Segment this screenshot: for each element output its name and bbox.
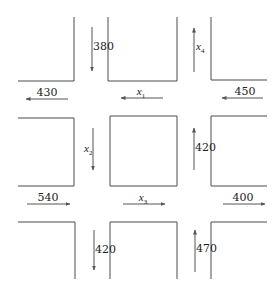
block-center xyxy=(110,116,177,186)
flow-value-label: 380 xyxy=(93,40,114,53)
block-top-right xyxy=(211,17,267,80)
flow-450-in: 450 xyxy=(222,85,263,98)
flow-value-label: 430 xyxy=(37,86,58,99)
block-top-middle xyxy=(108,17,177,81)
block-bottom-middle xyxy=(110,222,177,279)
flow-x3: x3 xyxy=(123,191,165,206)
flow-420-middle-in: 420 xyxy=(194,128,216,170)
block-top-left xyxy=(18,17,74,81)
variable-label: x4 xyxy=(195,40,205,55)
flow-470-in: 470 xyxy=(195,230,217,272)
flow-x1: x1 xyxy=(121,85,163,100)
variable-label: x2 xyxy=(83,142,93,157)
flow-x4-out: x4 xyxy=(194,28,205,72)
flow-value-label: 470 xyxy=(196,242,217,255)
flow-value-label: 540 xyxy=(38,191,59,204)
block-bottom-left xyxy=(18,222,75,279)
block-middle-right xyxy=(211,116,267,186)
flow-value-label: 450 xyxy=(235,85,256,98)
flow-430-out: 430 xyxy=(26,86,68,99)
flow-value-label: 420 xyxy=(95,243,116,256)
block-bottom-right xyxy=(211,222,267,279)
block-middle-left xyxy=(18,118,74,186)
flow-value-label: 400 xyxy=(233,191,254,204)
flow-380-in: 380 xyxy=(92,27,114,71)
traffic-flows: 380x4430x1450x2420540x3400420470 xyxy=(26,27,265,272)
flow-x2: x2 xyxy=(83,128,93,170)
flow-400-out: 400 xyxy=(223,191,265,204)
flow-540-in: 540 xyxy=(27,191,70,204)
flow-420-bottom-out: 420 xyxy=(94,230,116,270)
flow-value-label: 420 xyxy=(195,141,216,154)
traffic-network-diagram: 380x4430x1450x2420540x3400420470 xyxy=(0,0,280,297)
city-blocks xyxy=(18,17,267,279)
